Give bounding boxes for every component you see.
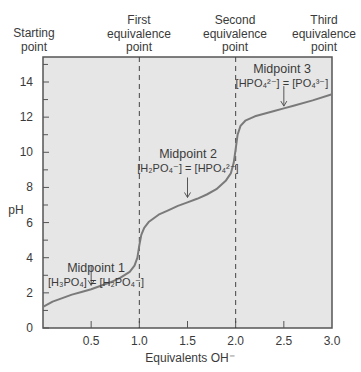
y-tick-label: 6 [26,216,33,230]
midpoint-equation: [H₃PO₄] = [H₂PO₄⁻] [46,276,146,290]
y-tick-label: 4 [26,251,33,265]
x-axis-label: Equivalents OH⁻ [130,352,250,366]
eq-right: [PO₄³⁻] [292,77,328,89]
midpoint-title: Midpoint 2 [128,148,248,162]
x-tick-label: 1.0 [131,334,148,348]
x-tick-label: 3.0 [324,334,341,348]
midpoint-title: Midpoint 1 [46,262,146,276]
x-tick-label: 2.0 [227,334,244,348]
eq-left: [H₂PO₄⁻] [137,162,182,174]
y-tick-label: 10 [20,145,34,159]
midpoint-2-annotation: Midpoint 2 [H₂PO₄⁻] = [HPO₄²⁻] [128,148,248,175]
midpoint-3-annotation: Midpoint 3 [HPO₄²⁻] = [PO₄³⁻] [232,63,332,90]
midpoint-equation: [H₂PO₄⁻] = [HPO₄²⁻] [128,162,248,176]
x-tick-label: 1.5 [179,334,196,348]
y-tick-label: 12 [20,110,34,124]
eq-right: [HPO₄²⁻] [195,162,239,174]
midpoint-title: Midpoint 3 [232,63,332,77]
eq-left: [HPO₄²⁻] [236,77,280,89]
y-tick-label: 8 [26,180,33,194]
x-tick-label: 0.5 [83,334,100,348]
y-tick-label: 0 [26,321,33,335]
x-tick-label: 2.5 [275,334,292,348]
y-tick-label: 2 [26,286,33,300]
eq-right: [H₂PO₄⁻] [99,276,144,288]
midpoint-equation: [HPO₄²⁻] = [PO₄³⁻] [232,77,332,91]
eq-left: [H₃PO₄] [48,276,87,288]
y-axis-label: pH [6,204,26,218]
midpoint-1-annotation: Midpoint 1 [H₃PO₄] = [H₂PO₄⁻] [46,262,146,289]
titration-chart: 024681012140.51.01.52.02.53.0 [0,0,361,372]
y-tick-label: 14 [20,75,34,89]
